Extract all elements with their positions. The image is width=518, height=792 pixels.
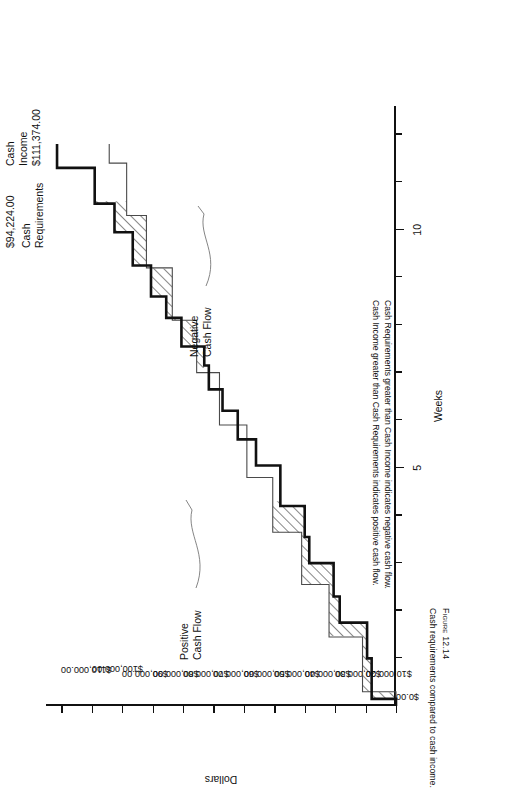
- x-tick: [396, 229, 404, 230]
- callout-leader-lines: [46, 106, 396, 706]
- x-tick: [396, 419, 402, 420]
- positive-cash-flow-annotation: Positive Cash Flow: [178, 610, 204, 660]
- x-tick: [396, 324, 402, 325]
- x-tick: [396, 276, 402, 277]
- cash-income-value: $111,374.00: [30, 109, 43, 166]
- cash-income-label: Cash Income: [4, 132, 30, 166]
- y-tick: [61, 706, 62, 713]
- y-tick-label: $0.00: [396, 692, 419, 702]
- x-tick: [396, 562, 402, 563]
- y-tick: [213, 706, 214, 713]
- figure-number: Figure 12.14: [439, 608, 452, 792]
- x-tick: [396, 371, 402, 372]
- y-tick: [305, 706, 306, 713]
- x-tick-label: 5: [411, 465, 423, 471]
- x-tick: [396, 181, 402, 182]
- cash-requirements-label: Cash Requirements: [20, 183, 46, 248]
- y-tick: [183, 706, 184, 713]
- y-tick: [153, 706, 154, 713]
- y-tick: [396, 706, 397, 713]
- x-tick: [396, 609, 402, 610]
- cash-requirements-value: $94,224.00: [4, 195, 17, 248]
- y-tick: [92, 706, 93, 713]
- chart-plot-area: 510 $0.00$10,000.00$20,000.00$30,000.00$…: [46, 106, 396, 706]
- x-tick: [396, 133, 402, 134]
- figure-notes: Cash Requirements greater than Cash Inco…: [369, 300, 394, 600]
- x-tick: [396, 514, 402, 515]
- y-axis-title: Dollars: [205, 774, 238, 786]
- x-tick: [396, 657, 402, 658]
- figure-caption-text: Cash requirements compared to cash incom…: [427, 608, 440, 792]
- y-tick: [122, 706, 123, 713]
- y-tick: [274, 706, 275, 713]
- y-tick: [244, 706, 245, 713]
- figure-caption: Figure 12.14 Cash requirements compared …: [427, 608, 453, 792]
- y-tick: [335, 706, 336, 713]
- negative-cash-flow-annotation: Negative Cash Flow: [188, 307, 214, 357]
- x-tick: [396, 467, 404, 468]
- x-tick-label: 10: [411, 224, 423, 236]
- figure-note-line-2: Cash Income greater than Cash Requiremen…: [369, 300, 381, 600]
- y-tick: [366, 706, 367, 713]
- x-axis-title: Weeks: [432, 390, 444, 422]
- figure-note-line-1: Cash Requirements greater than Cash Inco…: [382, 300, 394, 600]
